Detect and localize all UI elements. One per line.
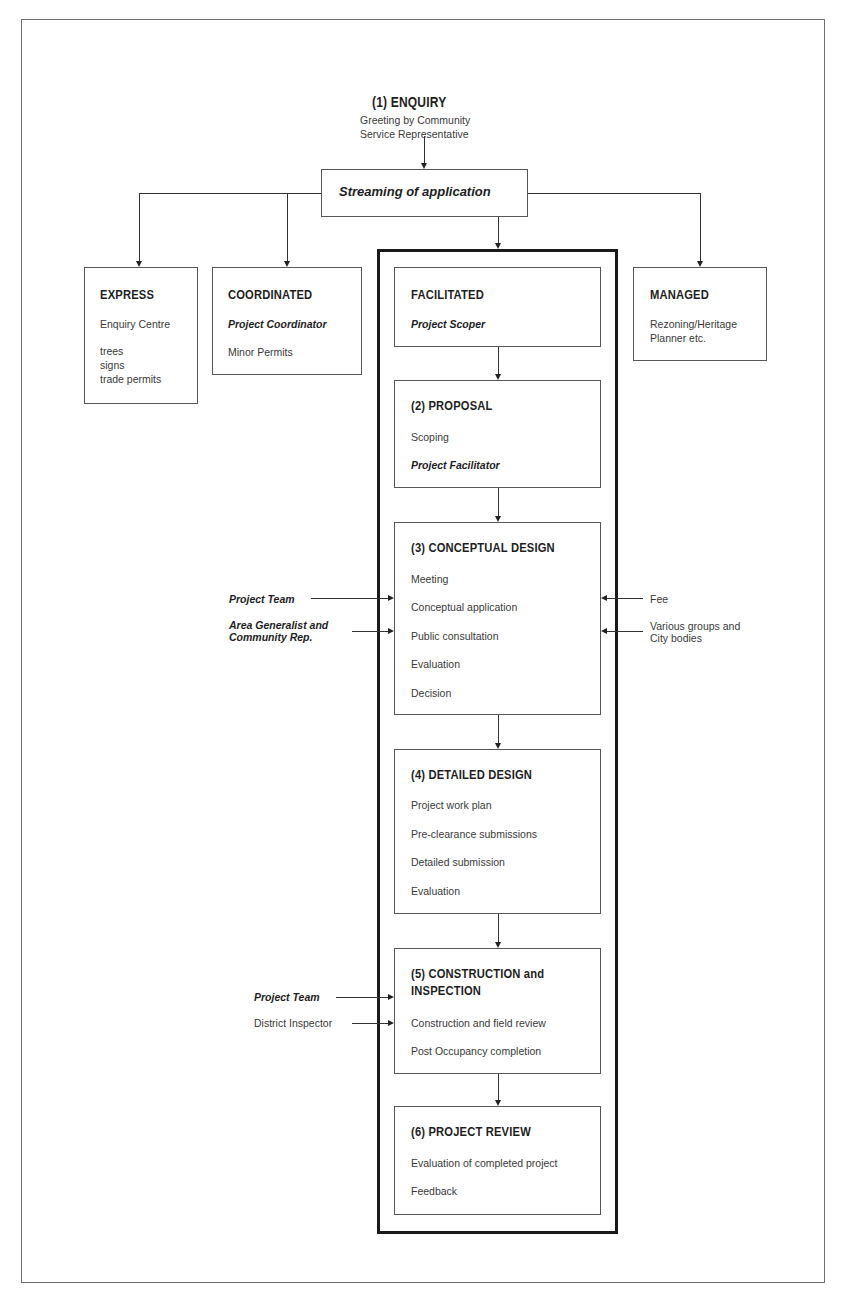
- proposal-role: Project Facilitator: [411, 459, 500, 471]
- detailed-title: (4) DETAILED DESIGN: [411, 767, 532, 782]
- detailed-item: Pre-clearance submissions: [411, 828, 537, 840]
- arrow-right-icon: [388, 994, 394, 1000]
- enquiry-line2: Service Representative: [360, 128, 469, 140]
- facilitated-box: [394, 267, 601, 347]
- detailed-item: Detailed submission: [411, 856, 505, 868]
- connector: [700, 193, 701, 261]
- arrow-left-icon: [601, 595, 607, 601]
- review-item: Feedback: [411, 1185, 457, 1197]
- connector: [498, 715, 499, 743]
- express-item: trees: [100, 345, 123, 357]
- conceptual-item: Conceptual application: [411, 601, 517, 613]
- conceptual-item: Decision: [411, 687, 451, 699]
- input-label-project-team: Project Team: [254, 991, 320, 1003]
- arrow-right-icon: [388, 628, 394, 634]
- input-label-city-bodies: City bodies: [650, 632, 702, 644]
- arrow-right-icon: [388, 595, 394, 601]
- arrow-left-icon: [601, 628, 607, 634]
- input-label-project-team: Project Team: [229, 593, 295, 605]
- connector: [311, 598, 388, 599]
- input-label-area-generalist: Area Generalist and: [229, 619, 328, 631]
- detailed-item: Evaluation: [411, 885, 460, 897]
- connector: [607, 631, 643, 632]
- enquiry-title: (1) ENQUIRY: [372, 94, 446, 110]
- facilitated-role: Project Scoper: [411, 318, 485, 330]
- construction-item: Post Occupancy completion: [411, 1045, 541, 1057]
- managed-line2: Planner etc.: [650, 332, 706, 344]
- enquiry-line1: Greeting by Community: [360, 114, 470, 126]
- construction-item: Construction and field review: [411, 1017, 546, 1029]
- coordinated-title: COORDINATED: [228, 287, 312, 302]
- connector: [287, 193, 288, 261]
- construction-title-line2: INSPECTION: [411, 983, 481, 998]
- facilitated-title: FACILITATED: [411, 287, 484, 302]
- review-item: Evaluation of completed project: [411, 1157, 558, 1169]
- streaming-label: Streaming of application: [339, 186, 491, 198]
- express-line1: Enquiry Centre: [100, 318, 170, 330]
- review-title: (6) PROJECT REVIEW: [411, 1124, 531, 1139]
- connector: [352, 631, 388, 632]
- input-label-community-rep: Community Rep.: [229, 631, 312, 643]
- input-label-fee: Fee: [650, 593, 668, 605]
- connector: [498, 347, 499, 374]
- connector: [498, 488, 499, 516]
- connector: [139, 193, 140, 261]
- connector: [528, 193, 700, 194]
- conceptual-item: Public consultation: [411, 630, 499, 642]
- coordinated-line1: Minor Permits: [228, 346, 293, 358]
- coordinated-role: Project Coordinator: [228, 318, 327, 330]
- construction-title-line1: (5) CONSTRUCTION and: [411, 966, 544, 981]
- connector: [607, 598, 643, 599]
- express-item: signs: [100, 359, 125, 371]
- conceptual-item: Evaluation: [411, 658, 460, 670]
- input-label-various-groups: Various groups and: [650, 620, 740, 632]
- arrow-right-icon: [388, 1020, 394, 1026]
- connector: [336, 997, 388, 998]
- input-label-district-inspector: District Inspector: [254, 1017, 332, 1029]
- connector: [352, 1023, 388, 1024]
- connector: [498, 914, 499, 942]
- managed-line1: Rezoning/Heritage: [650, 318, 737, 330]
- proposal-line1: Scoping: [411, 431, 449, 443]
- detailed-item: Project work plan: [411, 799, 492, 811]
- managed-title: MANAGED: [650, 287, 709, 302]
- express-item: trade permits: [100, 373, 161, 385]
- connector: [139, 193, 321, 194]
- connector: [498, 217, 499, 244]
- connector: [424, 136, 425, 164]
- connector: [498, 1074, 499, 1101]
- conceptual-item: Meeting: [411, 573, 448, 585]
- conceptual-title: (3) CONCEPTUAL DESIGN: [411, 540, 555, 555]
- managed-box: [633, 267, 767, 361]
- proposal-title: (2) PROPOSAL: [411, 398, 493, 413]
- express-title: EXPRESS: [100, 287, 154, 302]
